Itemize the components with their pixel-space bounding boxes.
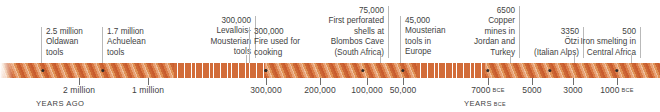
event-label-blombos-cave-shells: 75,000 First perforated shells at Blombo… [306,6,389,58]
timeline-figure: 2 million1 millionYEARS AGO300,000200,00… [0,0,660,112]
axis-tick-label: 100,000 [351,85,382,95]
event-leader-line-oldowan-tools [41,55,42,63]
axis-tick-label: 7000 BCE [471,85,505,95]
axis-tick [148,78,149,85]
axis-tick-label: 2 million [63,85,95,95]
axis-tick [266,78,267,85]
axis-caption: YEARS BCE [464,99,506,108]
axis-tick [617,78,618,85]
axis-tick-label: 200,000 [304,85,335,95]
axis-tick-era-suffix: BCE [620,87,634,93]
axis-tick-label: 1000 BCE [600,85,634,95]
axis-tick [367,78,368,85]
axis-tick-label: 50,000 [390,85,417,95]
event-leader-line-iron-smelting-central-africa [631,55,632,63]
axis-tick [79,78,80,85]
axis-tick [403,78,404,85]
segment-mid-lower-paleolithic [265,63,417,78]
axis-tick-label: 300,000 [250,85,281,95]
event-label-levallois-mousterian-tools: 300,000 Levallois- Mousterian tools [186,16,256,58]
event-leader-line-mousterian-tools-in-europe [400,55,401,63]
axis-tick [320,78,321,85]
axis-tick [488,78,489,85]
time-break-one [174,63,265,78]
event-label-acheulean-tools: 1.7 million Achuelean tools [102,27,171,58]
event-leader-line-acheulean-tools [102,55,103,63]
segment-early-stone-age [0,63,174,78]
axis-tick-label: 5000 [522,85,541,95]
axis-caption: YEARS AGO [36,99,84,108]
event-leader-line-blombos-cave-shells [380,55,381,63]
axis-tick [532,78,533,85]
time-break-two [417,63,485,78]
event-label-iron-smelting-central-africa: 500 Iron smelting in Central Africa [557,27,641,58]
axis-tick [573,78,574,85]
axis-tick-era-suffix: BCE [491,87,505,93]
axis-tick-label: 3000 [563,85,582,95]
event-label-oldowan-tools: 2.5 million Oldawan tools [41,27,110,58]
event-leader-line-copper-mines-jordan-turkey [510,55,511,63]
axis-caption-era-suffix: BCE [492,101,506,107]
event-label-copper-mines-jordan-turkey: 6500 Copper mines in Jordan and Turkey [455,6,520,58]
event-leader-line-levallois-mousterian-tools [246,55,247,63]
timeline-bar [0,63,660,78]
event-leader-line-fire-used-for-cooking [249,55,250,63]
segment-holocene [485,63,660,78]
axis-tick-label: 1 million [132,85,164,95]
